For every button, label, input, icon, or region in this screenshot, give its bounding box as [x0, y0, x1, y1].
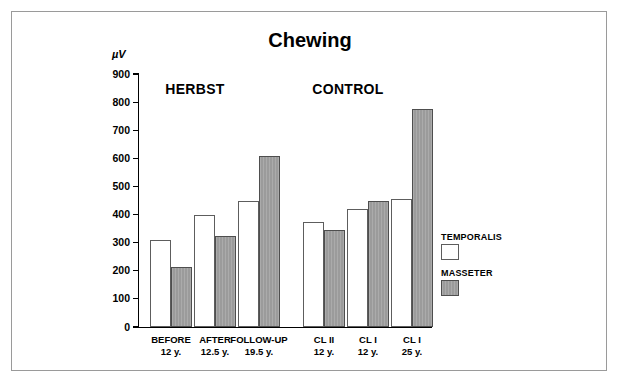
- y-tick-label-800: 800: [98, 96, 130, 108]
- chart-figure: Chewing HERBST CONTROL µV 01002003004005…: [0, 0, 619, 384]
- y-tick-300: [133, 242, 139, 243]
- x-axis-line: [138, 327, 432, 328]
- y-tick-600: [133, 158, 139, 159]
- bar-temporalis-1: [194, 215, 215, 327]
- x-category-label-2: FOLLOW-UP19.5 y.: [226, 334, 292, 357]
- bar-masseter-3: [324, 230, 345, 327]
- x-category-label-5: CL I25 y.: [379, 334, 445, 357]
- bar-temporalis-2: [238, 201, 259, 328]
- y-tick-label-700: 700: [98, 124, 130, 136]
- group-label-herbst: HERBST: [140, 81, 250, 97]
- bar-masseter-5: [412, 109, 433, 327]
- x-category-label-2-line1: FOLLOW-UP: [230, 334, 287, 345]
- bar-temporalis-5: [391, 199, 412, 327]
- bar-masseter-4: [368, 201, 389, 328]
- bar-temporalis-0: [150, 240, 171, 327]
- x-category-label-3-line1: CL II: [314, 334, 334, 345]
- y-tick-label-900: 900: [98, 68, 130, 80]
- bar-masseter-2: [259, 156, 280, 327]
- x-category-label-5-line1: CL I: [403, 334, 421, 345]
- bar-temporalis-4: [347, 209, 368, 327]
- legend-label-temporalis: TEMPORALIS: [441, 232, 502, 242]
- y-tick-label-300: 300: [98, 236, 130, 248]
- x-category-label-4-line1: CL I: [359, 334, 377, 345]
- y-tick-label-400: 400: [98, 208, 130, 220]
- group-label-control: CONTROL: [288, 81, 408, 97]
- legend-swatch-masseter: [441, 280, 459, 296]
- y-tick-100: [133, 298, 139, 299]
- bar-temporalis-3: [303, 222, 324, 327]
- legend-swatch-temporalis: [441, 244, 459, 260]
- y-tick-label-500: 500: [98, 180, 130, 192]
- y-tick-label-600: 600: [98, 152, 130, 164]
- y-tick-label-0: 0: [98, 321, 130, 333]
- page-title: Chewing: [210, 29, 410, 52]
- y-tick-900: [133, 73, 139, 74]
- y-axis-line: [138, 74, 139, 328]
- y-tick-400: [133, 214, 139, 215]
- x-category-label-5-line2: 25 y.: [379, 346, 445, 358]
- legend-label-masseter: MASSETER: [441, 268, 493, 278]
- y-tick-0: [133, 326, 139, 327]
- bar-masseter-0: [171, 267, 192, 327]
- x-category-label-2-line2: 19.5 y.: [226, 346, 292, 358]
- y-tick-500: [133, 186, 139, 187]
- y-axis-unit-label: µV: [112, 48, 126, 60]
- y-tick-label-200: 200: [98, 264, 130, 276]
- y-tick-200: [133, 270, 139, 271]
- y-tick-700: [133, 130, 139, 131]
- y-tick-800: [133, 102, 139, 103]
- bar-masseter-1: [215, 236, 236, 327]
- y-tick-label-100: 100: [98, 292, 130, 304]
